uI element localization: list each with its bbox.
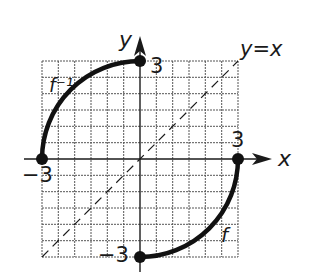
tick-label-x-right: 3 xyxy=(231,128,244,152)
tick-label-x-left: −3 xyxy=(22,163,53,187)
endpoint-3-0 xyxy=(232,153,244,165)
x-axis-label: x xyxy=(277,146,292,171)
endpoint-0-neg3 xyxy=(134,251,146,263)
identity-line-label: y=x xyxy=(239,37,283,61)
endpoint-0-3 xyxy=(134,55,146,67)
y-axis-label: y xyxy=(118,27,133,52)
curve-f-label: f xyxy=(221,223,231,247)
graph-canvas: y x y=x f⁻¹ f 3 3 −3 −3 xyxy=(0,0,313,277)
curve-f-inverse-label: f⁻¹ xyxy=(49,74,73,96)
tick-label-y-top: 3 xyxy=(150,54,163,78)
tick-label-y-bottom: −3 xyxy=(98,243,129,267)
